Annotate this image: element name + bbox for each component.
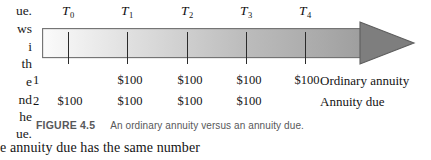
period-tick-t4 [305,32,306,64]
period-tick-t0 [68,32,69,64]
timeline-arrow [42,28,414,60]
figure-page: ue. ws i th e nd he ue. T0 T1 T2 T3 T4 [0,0,431,160]
cashflow-amount: $100 [118,94,143,109]
annuity-timeline-figure: T0 T1 T2 T3 T4 [0,0,431,138]
period-label-t1: T1 [121,3,133,19]
row-number: 2 [33,94,39,109]
period-tick-t1 [127,32,128,64]
cashflow-amount: $100 [58,94,83,109]
body-text-line: e annuity due has the same number [0,140,200,156]
figure-caption: FIGURE 4.5 An ordinary annuity versus an… [36,115,304,133]
row-label-ordinary-annuity: Ordinary annuity [320,73,409,89]
cashflow-amount: $100 [295,73,320,88]
cashflow-amount: $100 [237,73,262,88]
row-number: 1 [33,73,39,88]
cashflow-amount: $100 [178,94,203,109]
cashflow-amount: $100 [178,73,203,88]
period-tick-t3 [246,32,247,64]
figure-caption-text: An ordinary annuity versus an annuity du… [110,120,304,131]
period-label-t0: T0 [62,3,74,19]
timeline-arrow-shape [42,28,414,60]
cashflow-row-ordinary-annuity: 1 $100 $100 $100 $100 Ordinary annuity [0,73,431,89]
row-label-annuity-due: Annuity due [320,94,385,110]
period-label-t4: T4 [299,3,311,19]
period-tick-t2 [187,32,188,64]
period-label-t3: T3 [240,3,252,19]
cashflow-amount: $100 [118,73,143,88]
figure-caption-label: FIGURE 4.5 [36,119,95,131]
cashflow-amount: $100 [237,94,262,109]
period-label-t2: T2 [181,3,193,19]
cashflow-row-annuity-due: 2 $100 $100 $100 $100 Annuity due [0,94,431,110]
